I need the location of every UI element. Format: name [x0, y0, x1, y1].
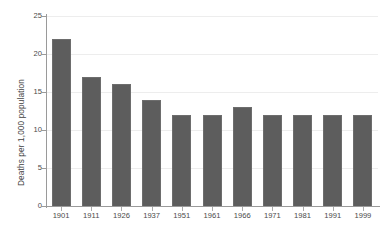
x-axis-tick-mark [212, 207, 213, 211]
bar[interactable] [263, 115, 282, 206]
bar[interactable] [142, 100, 161, 206]
x-axis-tick-label: 1966 [225, 212, 259, 220]
x-axis-tick-mark [242, 207, 243, 211]
x-axis-tick-label: 1971 [255, 212, 289, 220]
y-axis-tick-mark [41, 54, 46, 55]
x-axis-tick-label: 1926 [104, 212, 138, 220]
x-axis-tick-mark [272, 207, 273, 211]
x-axis-tick-label: 1937 [135, 212, 169, 220]
y-axis-tick-label: 5 [24, 164, 42, 172]
bar[interactable] [353, 115, 372, 206]
x-axis-tick-mark [303, 207, 304, 211]
x-axis-tick-label: 1901 [44, 212, 78, 220]
y-axis-tick-label: 0 [24, 202, 42, 210]
x-axis-tick-label: 1991 [316, 212, 350, 220]
x-axis-tick-mark [91, 207, 92, 211]
x-axis-tick-label: 1911 [74, 212, 108, 220]
x-axis-tick-mark [333, 207, 334, 211]
bar[interactable] [112, 84, 131, 206]
y-axis-tick-label: 25 [24, 12, 42, 20]
x-axis-tick-mark [363, 207, 364, 211]
y-axis-tick-mark [41, 206, 46, 207]
bar-chart-figure: Deaths per 1,000 population 0510152025 1… [0, 0, 387, 243]
bar[interactable] [52, 39, 71, 206]
x-axis-tick-mark [182, 207, 183, 211]
y-axis-tick-label: 10 [24, 126, 42, 134]
x-axis-tick-mark [152, 207, 153, 211]
y-axis-tick-label: 20 [24, 50, 42, 58]
x-axis-tick-labels: 1901191119261937195119611966197119811991… [46, 212, 382, 226]
x-axis-tick-label: 1961 [195, 212, 229, 220]
x-axis-tick-label: 1981 [286, 212, 320, 220]
bar[interactable] [323, 115, 342, 206]
y-axis-tick-mark [41, 130, 46, 131]
bar[interactable] [233, 107, 252, 206]
bar[interactable] [203, 115, 222, 206]
y-axis-tick-mark [41, 168, 46, 169]
bars-layer [46, 0, 382, 243]
bar[interactable] [82, 77, 101, 206]
y-axis-tick-label: 15 [24, 88, 42, 96]
y-axis-tick-mark [41, 92, 46, 93]
x-axis-tick-label: 1999 [346, 212, 380, 220]
y-axis-tick-mark [41, 16, 46, 17]
y-axis-tick-labels: 0510152025 [24, 0, 42, 243]
x-axis-tick-mark [61, 207, 62, 211]
x-axis-tick-mark [121, 207, 122, 211]
bar[interactable] [293, 115, 312, 206]
x-axis-tick-label: 1951 [165, 212, 199, 220]
bar[interactable] [172, 115, 191, 206]
